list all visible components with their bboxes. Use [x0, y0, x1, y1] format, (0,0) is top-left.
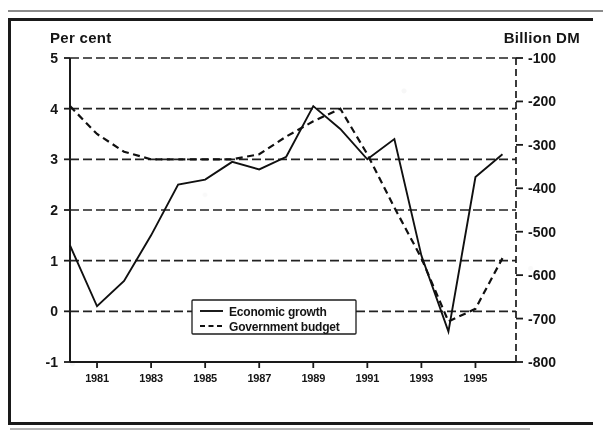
right-tick-label--800: -800	[528, 354, 556, 370]
right-tick-label--200: -200	[528, 93, 556, 109]
left-tick-label--1: -1	[46, 354, 59, 370]
right-tick-label--300: -300	[528, 137, 556, 153]
economic-chart: Per cent Billion DM 543210-1 -100-200-30…	[0, 0, 603, 433]
left-tick-label-2: 2	[50, 202, 58, 218]
right-tick-label--100: -100	[528, 50, 556, 66]
left-tick-label-4: 4	[50, 101, 58, 117]
right-tick-label--600: -600	[528, 267, 556, 283]
x-tick-label-1985: 1985	[193, 372, 217, 384]
x-tick-label-1983: 1983	[139, 372, 163, 384]
x-tick-label-1987: 1987	[247, 372, 271, 384]
left-tick-label-3: 3	[50, 151, 58, 167]
left-axis-tick-group: 543210-1	[46, 50, 70, 370]
legend-label-economic-growth: Economic growth	[229, 305, 327, 319]
left-tick-label-1: 1	[50, 253, 58, 269]
x-tick-label-1991: 1991	[355, 372, 379, 384]
x-axis-tick-group: 19811983198519871989199119931995	[85, 362, 487, 384]
chart-container: Per cent Billion DM 543210-1 -100-200-30…	[0, 0, 603, 433]
chart-legend: Economic growth Government budget	[192, 300, 356, 334]
left-axis-title: Per cent	[50, 29, 112, 46]
right-tick-label--500: -500	[528, 224, 556, 240]
x-tick-label-1995: 1995	[464, 372, 488, 384]
x-tick-label-1981: 1981	[85, 372, 109, 384]
right-tick-label--700: -700	[528, 311, 556, 327]
right-axis-tick-group: -100-200-300-400-500-600-700-800	[516, 50, 556, 370]
series-economic-growth	[70, 106, 502, 331]
series-government-budget	[70, 106, 502, 321]
x-tick-label-1989: 1989	[301, 372, 325, 384]
left-tick-label-5: 5	[50, 50, 58, 66]
legend-label-government-budget: Government budget	[229, 320, 340, 334]
right-tick-label--400: -400	[528, 180, 556, 196]
x-tick-label-1993: 1993	[410, 372, 434, 384]
left-tick-label-0: 0	[50, 303, 58, 319]
right-axis-title: Billion DM	[504, 29, 580, 46]
